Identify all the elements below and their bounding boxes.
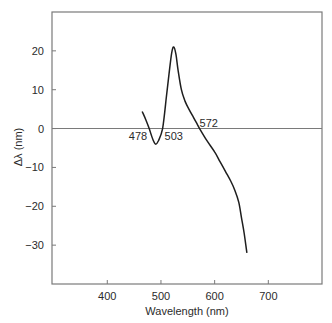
x-tick-label: 600: [205, 290, 223, 302]
x-axis-title: Wavelength (nm): [145, 305, 228, 317]
x-axis-ticks: 400500600700: [98, 280, 277, 302]
y-axis-ticks: 20100−10−20−30: [25, 45, 56, 251]
y-tick-label: 20: [32, 45, 44, 57]
y-tick-label: 0: [38, 123, 44, 135]
y-tick-label: −20: [25, 200, 44, 212]
data-curve: [142, 47, 247, 253]
crossing-annotation: 478: [129, 130, 147, 142]
y-axis-title: Δλ (nm): [12, 128, 24, 167]
y-tick-label: 10: [32, 84, 44, 96]
x-tick-label: 400: [98, 290, 116, 302]
y-tick-label: −10: [25, 161, 44, 173]
crossing-annotation: 572: [200, 117, 218, 129]
plot-border: [52, 12, 322, 284]
series-line: [142, 47, 247, 253]
x-tick-label: 500: [152, 290, 170, 302]
crossing-annotation: 503: [165, 130, 183, 142]
plot-frame: [52, 12, 322, 284]
x-tick-label: 700: [259, 290, 277, 302]
y-tick-label: −30: [25, 239, 44, 251]
chart-canvas: 400500600700 20100−10−20−30 478503572 Wa…: [0, 0, 332, 323]
